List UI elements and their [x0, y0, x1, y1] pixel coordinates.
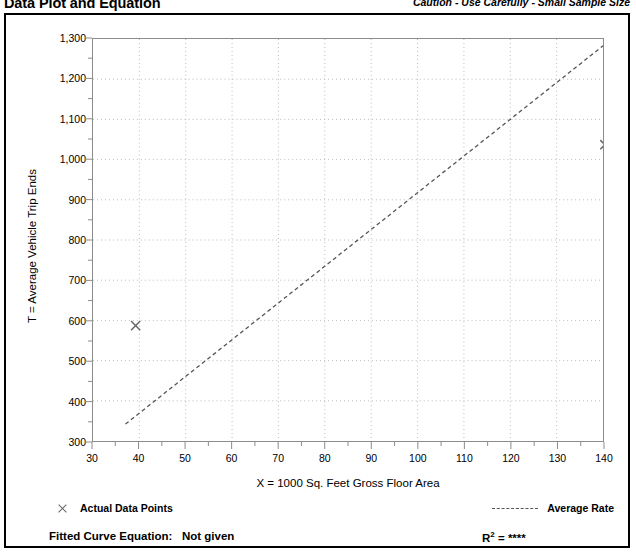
- legend-average-rate: Average Rate: [492, 502, 614, 514]
- x-tick-label: 100: [398, 452, 438, 464]
- x-tick-label: 70: [258, 452, 298, 464]
- r-squared-value: ****: [508, 532, 526, 544]
- x-tick-label: 120: [491, 452, 531, 464]
- x-marker-icon: [57, 503, 68, 514]
- legend-label-actual-data-points: Actual Data Points: [80, 502, 173, 514]
- r-squared: R2 = ****: [482, 530, 526, 544]
- x-tick-label: 60: [212, 452, 252, 464]
- x-tick-label: 140: [584, 452, 624, 464]
- x-tick-label: 50: [165, 452, 205, 464]
- legend-label-average-rate: Average Rate: [547, 502, 614, 514]
- axis-tickmarks: [80, 32, 612, 472]
- x-tick-label: 30: [72, 452, 112, 464]
- fitted-curve-label: Fitted Curve Equation:: [49, 530, 172, 542]
- chart-region: T = Average Vehicle Trip Ends 3004005006…: [0, 0, 636, 552]
- fitted-curve-value: Not given: [182, 530, 234, 542]
- x-tick-label: 130: [537, 452, 577, 464]
- y-axis-title: T = Average Vehicle Trip Ends: [26, 126, 38, 366]
- x-tick-label: 90: [351, 452, 391, 464]
- x-tick-label: 40: [119, 452, 159, 464]
- equation-row: Fitted Curve Equation: Not given R2 = **…: [0, 530, 636, 552]
- dashed-line-icon: [492, 508, 538, 509]
- fitted-curve-equation: Fitted Curve Equation: Not given: [49, 530, 234, 542]
- y-axis-tick-labels: 3004005006007008009001,0001,1001,2001,30…: [38, 38, 86, 442]
- x-tick-label: 110: [444, 452, 484, 464]
- x-tick-label: 80: [305, 452, 345, 464]
- r-squared-equals: =: [495, 532, 508, 544]
- x-axis-title: X = 1000 Sq. Feet Gross Floor Area: [92, 477, 604, 489]
- x-axis-tick-labels: 30405060708090100110120130140: [92, 452, 604, 468]
- legend-actual-data-points: Actual Data Points: [57, 502, 173, 514]
